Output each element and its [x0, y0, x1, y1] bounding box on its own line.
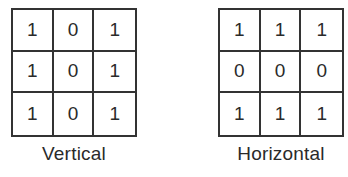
grid-cell: 1: [220, 93, 261, 135]
grid-cell: 1: [13, 52, 54, 94]
grid-cell: 0: [301, 52, 342, 94]
horizontal-kernel-grid: 1 1 1 0 0 0 1 1 1: [218, 8, 344, 137]
grid-cell: 1: [94, 10, 135, 52]
grid-cell: 1: [261, 10, 302, 52]
vertical-label: Vertical: [11, 143, 137, 165]
grid-cell: 0: [54, 52, 95, 94]
grid-cell: 1: [301, 10, 342, 52]
grid-cell: 1: [301, 93, 342, 135]
grid-cell: 1: [261, 93, 302, 135]
grid-cell: 0: [261, 52, 302, 94]
grid-cell: 0: [54, 10, 95, 52]
grid-cell: 1: [13, 10, 54, 52]
grid-cell: 0: [54, 93, 95, 135]
grid-cell: 1: [13, 93, 54, 135]
grid-cell: 0: [220, 52, 261, 94]
grid-cell: 1: [94, 93, 135, 135]
horizontal-label: Horizontal: [218, 143, 344, 165]
horizontal-kernel-panel: 1 1 1 0 0 0 1 1 1 Horizontal: [218, 8, 344, 165]
vertical-kernel-grid: 1 0 1 1 0 1 1 0 1: [11, 8, 137, 137]
grid-cell: 1: [220, 10, 261, 52]
grid-cell: 1: [94, 52, 135, 94]
vertical-kernel-panel: 1 0 1 1 0 1 1 0 1 Vertical: [11, 8, 137, 165]
